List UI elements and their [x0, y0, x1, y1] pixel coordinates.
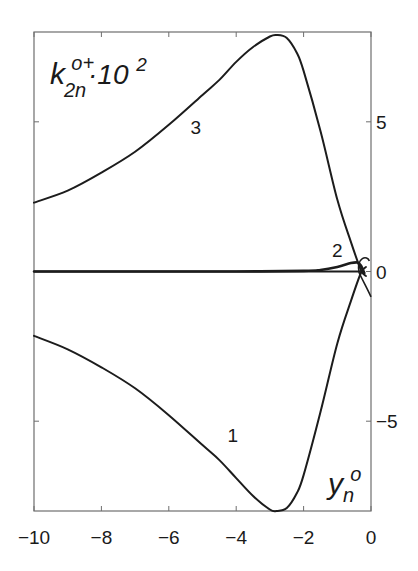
curve-label-3: 3 [190, 117, 201, 138]
y-axis-title-sub: 2n [63, 79, 86, 101]
y-axis-title-factor-exp: 2 [135, 54, 147, 75]
x-axis-title-sub: n [343, 484, 354, 506]
curve-1 [34, 267, 366, 511]
y-tick-label: 5 [376, 112, 387, 133]
y-tick-label: −5 [376, 411, 398, 432]
curve-label-1: 1 [228, 425, 239, 446]
chart: −10−8−6−4−20−505 123 k o+ 2n ·10 2 y o n [0, 0, 418, 571]
x-tick-label: −10 [18, 527, 50, 548]
y-tick-label: 0 [376, 262, 387, 283]
curve-labels: 123 [190, 117, 342, 446]
y-axis-title-factor-base: ·10 [88, 59, 129, 90]
curve-label-2: 2 [332, 240, 343, 261]
x-tick-label: −8 [91, 527, 113, 548]
x-axis-title-sup: o [350, 463, 361, 485]
x-tick-label: 0 [366, 527, 377, 548]
x-tick-label: −4 [225, 527, 247, 548]
x-tick-label: −6 [158, 527, 180, 548]
x-tick-label: −2 [293, 527, 315, 548]
curves [34, 35, 371, 511]
y-axis-title-factor: ·10 2 [88, 54, 147, 90]
